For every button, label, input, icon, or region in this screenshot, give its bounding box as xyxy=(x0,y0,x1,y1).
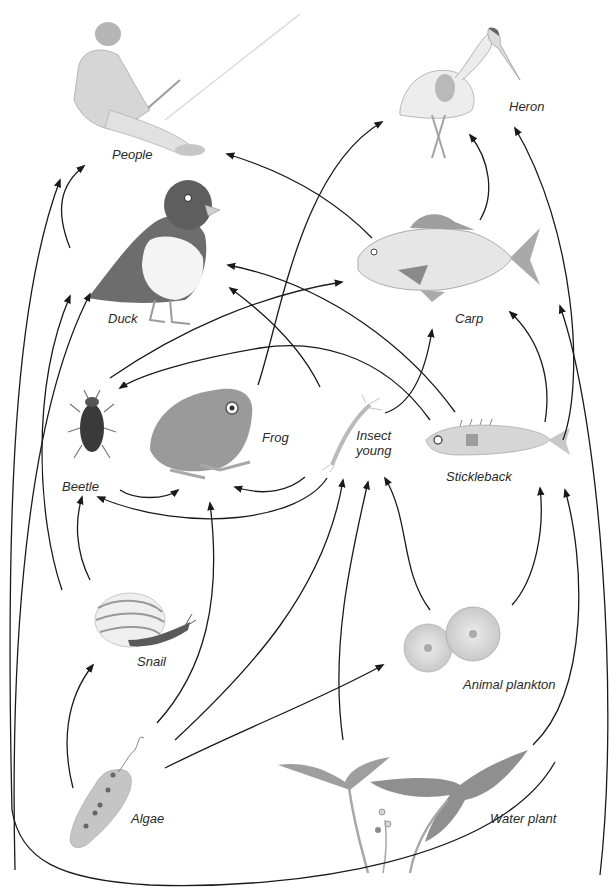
label-people: People xyxy=(112,147,152,162)
algae-illustration xyxy=(70,737,144,847)
duck-illustration xyxy=(88,180,220,324)
arrow-algae-to-frog xyxy=(157,503,214,723)
arrow-insect-young-to-carp xyxy=(385,330,432,413)
arrow-insect-young-to-duck xyxy=(230,288,320,387)
label-duck: Duck xyxy=(108,311,138,326)
food-web-diagram xyxy=(0,0,616,893)
arrow-insect-young-to-frog xyxy=(235,477,305,492)
fisherman-illustration xyxy=(74,14,300,156)
arrow-water-plant-to-insect-young xyxy=(339,482,368,740)
carp-illustration xyxy=(358,214,540,302)
arrow-algae-to-duck xyxy=(14,294,90,870)
beetle-illustration xyxy=(68,390,116,458)
frog-illustration xyxy=(150,389,252,478)
label-frog: Frog xyxy=(262,430,289,445)
arrow-algae-to-snail xyxy=(67,665,93,788)
arrow-snail-to-duck xyxy=(42,296,70,590)
arrow-animal-plankton-to-stickleback xyxy=(512,488,541,605)
arrow-carp-to-heron xyxy=(470,135,489,220)
arrow-stickleback-to-heron xyxy=(515,128,574,440)
label-stickleback: Stickleback xyxy=(446,469,512,484)
arrow-algae-to-animal-plankton xyxy=(165,665,383,768)
label-animal-plankton: Animal plankton xyxy=(463,677,556,692)
arrow-beetle-to-frog xyxy=(120,490,178,498)
label-insect-young-line1: Insect xyxy=(356,428,391,443)
label-insect-young-line2: young xyxy=(356,443,391,458)
stickleback-illustration xyxy=(426,419,570,455)
snail-illustration xyxy=(95,593,196,647)
arrow-duck-to-people xyxy=(62,166,84,248)
label-snail: Snail xyxy=(137,654,166,669)
label-water-plant: Water plant xyxy=(490,811,556,826)
label-beetle: Beetle xyxy=(62,479,99,494)
label-heron: Heron xyxy=(509,99,544,114)
arrow-carp-to-people xyxy=(227,154,372,238)
label-carp: Carp xyxy=(455,311,483,326)
label-insect-young: Insect young xyxy=(356,428,391,458)
plankton-illustration xyxy=(404,607,500,672)
arrow-snail-to-beetle xyxy=(77,497,90,580)
arrow-stickleback-to-beetle xyxy=(120,346,430,420)
label-algae: Algae xyxy=(131,811,164,826)
arrow-insect-young-to-beetle xyxy=(98,478,327,519)
arrow-animal-plankton-to-insect-young xyxy=(385,478,430,610)
arrow-water-plant-to-carp xyxy=(560,306,608,875)
heron-illustration xyxy=(400,27,520,158)
arrow-stickleback-to-carp xyxy=(510,312,547,422)
